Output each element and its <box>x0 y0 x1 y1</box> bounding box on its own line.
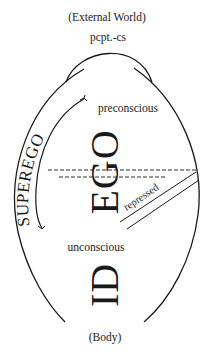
external-world-label: (External World) <box>68 11 146 24</box>
ego-label: EGO <box>82 129 127 214</box>
psyche-diagram: (External World) pcpt.-cs SUPEREGO preco… <box>0 0 213 354</box>
superego-arc <box>36 99 84 228</box>
superego-label: SUPEREGO <box>13 130 48 228</box>
id-label: ID <box>82 263 127 307</box>
body-label: (Body) <box>89 331 122 344</box>
pcpt-cs-arc <box>66 53 152 82</box>
pcpt-cs-label: pcpt.-cs <box>90 31 127 44</box>
preconscious-label: preconscious <box>98 102 159 115</box>
unconscious-label: unconscious <box>68 241 125 253</box>
